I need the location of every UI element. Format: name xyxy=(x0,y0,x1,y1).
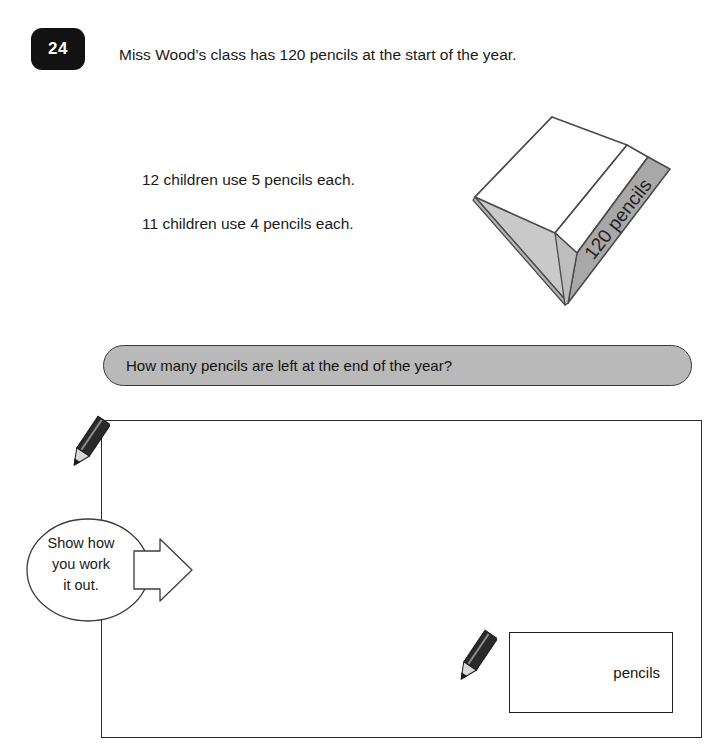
question-stem-text: Miss Wood’s class has 120 pencils at the… xyxy=(119,45,516,65)
answer-unit-label: pencils xyxy=(613,664,672,681)
pencil-body xyxy=(77,416,110,456)
question-statement-2: 11 children use 4 pencils each. xyxy=(142,214,354,234)
pencil-icon xyxy=(68,414,110,474)
question-number-label: 24 xyxy=(48,39,68,59)
question-number-badge: 24 xyxy=(31,28,85,70)
pencil-body xyxy=(464,630,497,670)
show-how-line-1: Show how xyxy=(35,533,127,554)
question-statement-1: 12 children use 5 pencils each. xyxy=(142,170,355,190)
pencil-box-illustration: 120 pencils xyxy=(455,105,690,325)
show-how-line-3: it out. xyxy=(35,575,127,596)
question-prompt-banner: How many pencils are left at the end of … xyxy=(103,345,692,386)
question-prompt-label: How many pencils are left at the end of … xyxy=(104,357,452,374)
show-how-line-2: you work xyxy=(35,554,127,575)
show-your-working-text: Show how you work it out. xyxy=(35,533,127,596)
pencil-icon xyxy=(455,628,497,688)
answer-input-box[interactable]: pencils xyxy=(509,632,673,713)
